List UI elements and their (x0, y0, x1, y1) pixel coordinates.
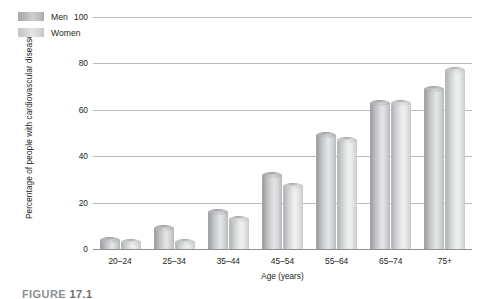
bar-women (445, 67, 465, 249)
x-tick-label: 20–24 (108, 256, 131, 266)
bar-top-shadow (100, 237, 120, 243)
bar-women (121, 239, 141, 249)
x-tick-label: 45–54 (271, 256, 294, 266)
y-tick-label-80: 80 (79, 58, 88, 68)
x-tick-label: 65–74 (379, 256, 402, 266)
legend-item: Women (18, 26, 80, 39)
x-tick-label: 55–64 (325, 256, 348, 266)
bar-group: 45–54 (255, 17, 309, 249)
figure-caption-prefix: FIGURE (22, 288, 66, 299)
x-tick-label: 75+ (438, 256, 452, 266)
bar-women (283, 183, 303, 249)
bar-men (154, 225, 174, 249)
bar-women (175, 239, 195, 249)
bar-men (262, 172, 282, 249)
bar-body (370, 103, 390, 249)
bar-top-shadow (121, 239, 141, 245)
bar-top-shadow (229, 216, 249, 222)
bar-body (208, 212, 228, 249)
bar-group: 55–64 (310, 17, 364, 249)
bar-body (424, 89, 444, 249)
legend-label: Women (51, 28, 80, 38)
chart-legend: MenWomen (18, 10, 80, 42)
bar-body (337, 140, 357, 249)
bar-top-shadow (370, 100, 390, 106)
bar-top-shadow (208, 209, 228, 215)
plot-area: 100806040200 20–2425–3435–4445–5455–6465… (93, 17, 472, 249)
y-tick-label-0: 0 (83, 244, 88, 254)
bar-group: 20–24 (93, 17, 147, 249)
legend-swatch (18, 28, 44, 37)
bar-group: 35–44 (201, 17, 255, 249)
bar-women (337, 137, 357, 249)
bar-top-shadow (175, 239, 195, 245)
bar-body (316, 135, 336, 249)
bar-women (391, 100, 411, 249)
bar-body (229, 219, 249, 249)
bar-men (100, 237, 120, 249)
bar-body (154, 228, 174, 249)
bar-top-shadow (154, 225, 174, 231)
y-tick-label-40: 40 (79, 151, 88, 161)
bar-body (391, 103, 411, 249)
bar-men (424, 86, 444, 249)
bar-men (208, 209, 228, 249)
y-tick-label-20: 20 (79, 198, 88, 208)
figure-caption: FIGURE 17.1 (22, 288, 92, 299)
bar-top-shadow (262, 172, 282, 178)
legend-item: Men (18, 10, 80, 23)
x-tick-label: 25–34 (163, 256, 186, 266)
bar-group: 65–74 (364, 17, 418, 249)
bar-top-shadow (337, 137, 357, 143)
bar-top-shadow (391, 100, 411, 106)
bar-men (316, 132, 336, 249)
bar-body (283, 186, 303, 249)
bar-top-shadow (424, 86, 444, 92)
gridline-0: 0 (93, 249, 472, 250)
figure-caption-number: 17.1 (69, 288, 92, 299)
bar-groups: 20–2425–3435–4445–5455–6465–7475+ (93, 17, 472, 249)
bar-body (445, 70, 465, 249)
legend-label: Men (51, 12, 68, 22)
bar-women (229, 216, 249, 249)
figure-container: Percentage of people with cardiovascular… (0, 0, 496, 299)
bar-group: 25–34 (147, 17, 201, 249)
x-tick-label: 35–44 (217, 256, 240, 266)
bar-body (262, 175, 282, 249)
x-axis-title: Age (years) (93, 272, 472, 281)
bar-men (370, 100, 390, 249)
legend-swatch (18, 12, 44, 21)
y-tick-label-60: 60 (79, 105, 88, 115)
bar-group: 75+ (418, 17, 472, 249)
